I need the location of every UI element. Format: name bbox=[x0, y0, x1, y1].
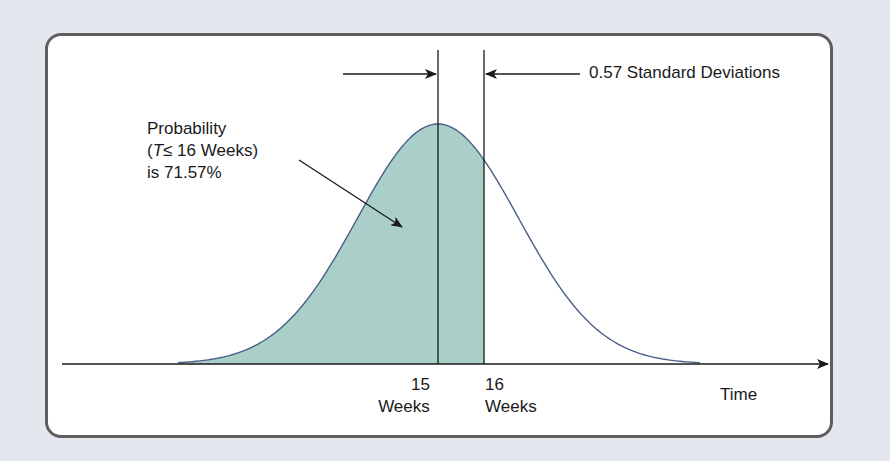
tick-label-15-weeks: 15 Weeks bbox=[378, 374, 430, 418]
probability-line-2: (T≤ 16 Weeks) bbox=[147, 140, 258, 162]
x-axis-label: Time bbox=[720, 384, 757, 406]
probability-line-3: is 71.57% bbox=[147, 162, 258, 184]
standard-deviation-label: 0.57 Standard Deviations bbox=[589, 62, 780, 84]
tick-label-16-weeks: 16 Weeks bbox=[485, 374, 537, 418]
probability-line-1: Probability bbox=[147, 118, 258, 140]
probability-annotation: Probability (T≤ 16 Weeks) is 71.57% bbox=[147, 118, 258, 184]
